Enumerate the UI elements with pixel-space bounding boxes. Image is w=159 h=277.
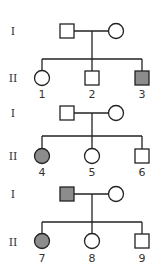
pedigree-diagram: III123III456III789: [0, 0, 159, 277]
individual-number: 9: [139, 252, 146, 265]
mother-female-circle-icon: [109, 24, 124, 39]
generation-label-ii: II: [9, 72, 18, 85]
family-1: III123: [9, 24, 149, 102]
child-4-affected-female-circle-icon: [35, 149, 50, 164]
child-9-male-square-icon: [135, 234, 149, 248]
child-5-female-circle-icon: [85, 149, 100, 164]
individual-number: 2: [89, 88, 96, 101]
family-2: III456: [9, 106, 149, 180]
individual-number: 3: [139, 88, 146, 101]
generation-label-i: I: [11, 107, 15, 120]
mother-female-circle-icon: [109, 187, 124, 202]
generation-label-i: I: [11, 188, 15, 201]
child-2-male-square-icon: [85, 71, 99, 85]
child-3-affected-male-square-icon: [135, 71, 149, 85]
individual-number: 7: [39, 252, 46, 265]
father-male-square-icon: [60, 24, 74, 38]
individual-number: 4: [39, 166, 46, 179]
individual-number: 8: [89, 252, 96, 265]
child-1-female-circle-icon: [35, 71, 50, 86]
family-3: III789: [9, 187, 149, 266]
mother-female-circle-icon: [109, 106, 124, 121]
father-affected-male-square-icon: [60, 187, 74, 201]
individual-number: 5: [89, 166, 96, 179]
generation-label-ii: II: [9, 150, 18, 163]
child-7-affected-female-circle-icon: [35, 234, 50, 249]
individual-number: 6: [139, 166, 146, 179]
generation-label-ii: II: [9, 236, 18, 249]
father-male-square-icon: [60, 106, 74, 120]
child-8-female-circle-icon: [85, 234, 100, 249]
child-6-male-square-icon: [135, 149, 149, 163]
generation-label-i: I: [11, 25, 15, 38]
individual-number: 1: [39, 88, 46, 101]
